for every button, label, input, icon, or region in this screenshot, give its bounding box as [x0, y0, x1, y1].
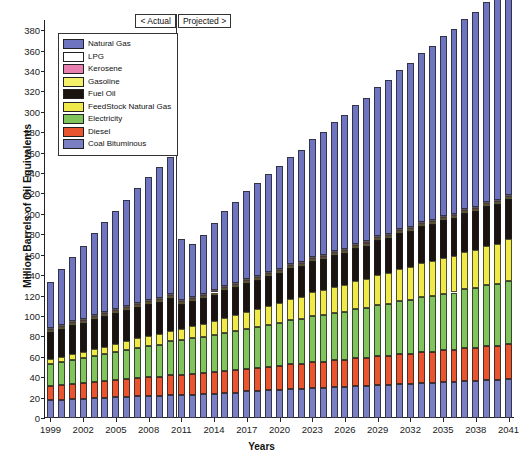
bar-segment [276, 323, 283, 366]
y-axis-tick-label: 380 [0, 25, 40, 36]
bar-segment [47, 330, 54, 332]
bar-column[interactable] [505, 20, 512, 418]
bar-segment [396, 233, 403, 269]
bar-segment [167, 341, 174, 375]
bar-segment [145, 396, 152, 418]
bar-column[interactable] [320, 20, 327, 418]
legend-item[interactable]: Coal Bituminous [63, 138, 171, 151]
bar-column[interactable] [461, 20, 468, 418]
bar-segment [58, 269, 65, 325]
bar-segment [341, 253, 348, 286]
bar-segment [58, 329, 65, 357]
bar-segment [134, 378, 141, 395]
bar-segment [341, 251, 348, 253]
bar-segment [189, 395, 196, 418]
bar-column[interactable] [440, 20, 447, 418]
bar-column[interactable] [265, 20, 272, 418]
bar-column[interactable] [483, 20, 490, 418]
bar-segment [341, 312, 348, 360]
bar-segment [80, 321, 87, 323]
bar-column[interactable] [221, 20, 228, 418]
legend-item[interactable]: Gasoline [63, 76, 171, 89]
bar-segment [363, 358, 370, 387]
bar-column[interactable] [352, 20, 359, 418]
bar-segment [211, 394, 218, 418]
bar-segment [134, 307, 141, 339]
bar-segment [396, 354, 403, 385]
bar-column[interactable] [287, 20, 294, 418]
legend-item[interactable]: Fuel Oil [63, 88, 171, 101]
bar-segment [298, 319, 305, 364]
bar-segment [331, 387, 338, 418]
legend-item[interactable]: LPG [63, 51, 171, 64]
bar-segment [276, 366, 283, 390]
bar-column[interactable] [451, 20, 458, 418]
legend-item[interactable]: Diesel [63, 126, 171, 139]
bar-segment [287, 389, 294, 418]
bar-column[interactable] [374, 20, 381, 418]
bar-segment [69, 323, 76, 325]
x-axis-tick-mark [50, 418, 51, 422]
bar-segment [483, 246, 490, 286]
bar-segment [407, 63, 414, 227]
bar-segment [156, 345, 163, 378]
bar-column[interactable] [472, 20, 479, 418]
projected-label: Projected > [178, 14, 231, 28]
bar-column[interactable] [407, 20, 414, 418]
bar-column[interactable] [254, 20, 261, 418]
bar-segment [221, 290, 228, 318]
legend-item[interactable]: Electricity [63, 113, 171, 126]
bar-column[interactable] [341, 20, 348, 418]
bar-segment [80, 323, 87, 352]
bar-segment [80, 399, 87, 418]
bar-segment [69, 399, 76, 418]
bar-segment [265, 276, 272, 306]
bar-segment [178, 329, 185, 340]
bar-segment [418, 383, 425, 418]
bar-segment [341, 387, 348, 418]
x-axis-tick-mark [378, 418, 379, 422]
bar-segment [211, 321, 218, 335]
bar-column[interactable] [418, 20, 425, 418]
legend-item[interactable]: Natural Gas [63, 38, 171, 51]
bar-column[interactable] [178, 20, 185, 418]
bar-segment [374, 356, 381, 386]
bar-column[interactable] [494, 20, 501, 418]
bar-column[interactable] [232, 20, 239, 418]
bar-column[interactable] [189, 20, 196, 418]
legend-item[interactable]: Kerosene [63, 63, 171, 76]
bar-column[interactable] [429, 20, 436, 418]
bar-column[interactable] [331, 20, 338, 418]
bar-column[interactable] [200, 20, 207, 418]
bar-segment [309, 292, 316, 315]
bar-segment [363, 279, 370, 308]
legend-item[interactable]: FeedStock Natural Gas [63, 101, 171, 114]
y-axis-tick-label: 340 [0, 66, 40, 77]
bar-segment [167, 331, 174, 341]
bar-column[interactable] [298, 20, 305, 418]
bar-segment [451, 350, 458, 383]
y-axis-tick-label: 80 [0, 331, 40, 342]
bar-segment [200, 235, 207, 293]
bar-segment [200, 394, 207, 418]
bar-segment [309, 388, 316, 418]
bar-column[interactable] [243, 20, 250, 418]
bar-segment [352, 246, 359, 248]
y-axis-tick-label: 260 [0, 148, 40, 159]
bar-segment [407, 229, 414, 231]
bar-column[interactable] [211, 20, 218, 418]
bar-segment [265, 325, 272, 367]
bar-segment [320, 362, 327, 389]
x-axis-tick-mark [476, 418, 477, 422]
bar-column[interactable] [47, 20, 54, 418]
bar-column[interactable] [363, 20, 370, 418]
bar-column[interactable] [396, 20, 403, 418]
bar-segment [123, 379, 130, 396]
y-axis-tick-label: 100 [0, 311, 40, 322]
bar-column[interactable] [385, 20, 392, 418]
bar-column[interactable] [309, 20, 316, 418]
bar-segment [101, 314, 108, 316]
bar-segment [505, 344, 512, 380]
bar-column[interactable] [276, 20, 283, 418]
bar-segment [134, 305, 141, 307]
